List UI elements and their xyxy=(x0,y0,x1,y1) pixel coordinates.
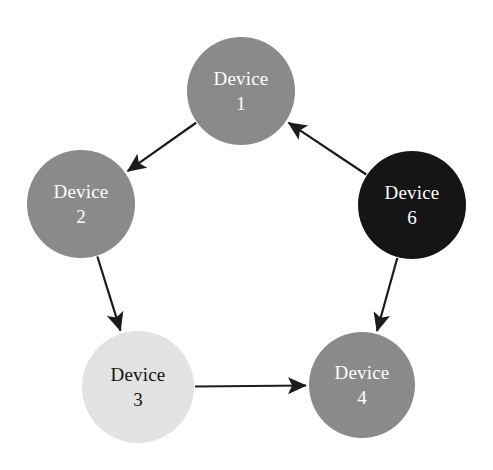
node-device-6-label: Device xyxy=(385,181,440,204)
edge-3-to-4 xyxy=(195,385,306,386)
device-ring-diagram: Device 1 Device 2 Device 3 Device 4 Devi… xyxy=(0,0,493,470)
edge-2-to-3 xyxy=(97,257,120,331)
node-device-6-number: 6 xyxy=(407,206,417,229)
node-device-4-number: 4 xyxy=(357,386,367,409)
node-device-4[interactable]: Device 4 xyxy=(309,332,415,438)
node-device-1-number: 1 xyxy=(236,92,246,115)
node-device-2[interactable]: Device 2 xyxy=(27,150,135,258)
node-device-1[interactable]: Device 1 xyxy=(187,37,295,145)
node-device-3[interactable]: Device 3 xyxy=(82,331,194,443)
node-device-2-label: Device xyxy=(54,180,109,203)
node-device-4-label: Device xyxy=(335,361,390,384)
node-device-2-number: 2 xyxy=(76,205,86,228)
node-device-3-label: Device xyxy=(111,363,166,386)
node-device-6[interactable]: Device 6 xyxy=(358,151,466,259)
edge-6-to-1 xyxy=(288,123,366,175)
node-device-3-number: 3 xyxy=(133,388,143,411)
edge-1-to-2 xyxy=(128,123,197,171)
node-device-1-label: Device xyxy=(214,67,269,90)
edge-6-to-4 xyxy=(377,258,397,331)
